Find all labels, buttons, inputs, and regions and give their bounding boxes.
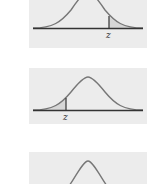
z-label: z — [106, 31, 111, 40]
normal-curve-panel-partial — [29, 152, 147, 184]
normal-curve-right-tail-graphic — [29, 0, 147, 48]
normal-curve-panel-left-tail: z — [29, 68, 147, 124]
normal-curve-left-tail-graphic — [29, 68, 147, 124]
normal-curve-partial-graphic — [29, 152, 147, 184]
z-label: z — [63, 113, 68, 122]
normal-curve-panel-right-tail: z — [29, 0, 147, 48]
